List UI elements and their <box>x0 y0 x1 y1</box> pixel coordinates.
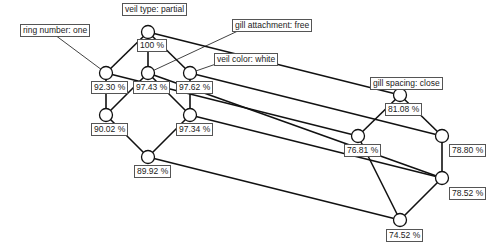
concept-node[interactable] <box>100 67 113 80</box>
attribute-label: veil type: partial <box>122 3 187 16</box>
concept-node[interactable] <box>394 214 407 227</box>
support-label: 81.08 % <box>385 103 422 116</box>
support-label: 97.34 % <box>176 123 213 136</box>
concept-node[interactable] <box>394 89 407 102</box>
concept-node[interactable] <box>142 67 155 80</box>
lattice-edge <box>106 73 148 115</box>
support-label: 100 % <box>137 39 167 52</box>
concept-node[interactable] <box>142 151 155 164</box>
lattice-diagram <box>0 0 499 251</box>
concept-node[interactable] <box>184 67 197 80</box>
lattice-edge <box>400 178 442 220</box>
lattice-edge <box>190 115 442 178</box>
attribute-label: ring number: one <box>20 24 90 37</box>
support-label: 89.92 % <box>134 165 171 178</box>
support-label: 90.02 % <box>91 123 128 136</box>
pointer-line <box>55 35 106 73</box>
support-label: 97.43 % <box>133 81 170 94</box>
concept-node[interactable] <box>142 26 155 39</box>
concept-node[interactable] <box>436 130 449 143</box>
lattice-edge <box>148 73 190 115</box>
support-label: 97.62 % <box>176 81 213 94</box>
support-label: 76.81 % <box>344 144 381 157</box>
concept-node[interactable] <box>100 109 113 122</box>
attribute-label: gill spacing: close <box>370 77 443 90</box>
support-label: 74.52 % <box>386 229 423 242</box>
lattice-edge <box>148 115 190 157</box>
concept-node[interactable] <box>352 130 365 143</box>
support-label: 78.52 % <box>449 187 486 200</box>
concept-node[interactable] <box>184 109 197 122</box>
support-label: 78.80 % <box>449 144 486 157</box>
attribute-label: gill attachment: free <box>232 19 312 32</box>
concept-node[interactable] <box>436 172 449 185</box>
lattice-edge <box>148 157 400 220</box>
lattice-edge <box>106 115 148 157</box>
support-label: 92.30 % <box>91 81 128 94</box>
attribute-label: veil color: white <box>214 53 278 66</box>
